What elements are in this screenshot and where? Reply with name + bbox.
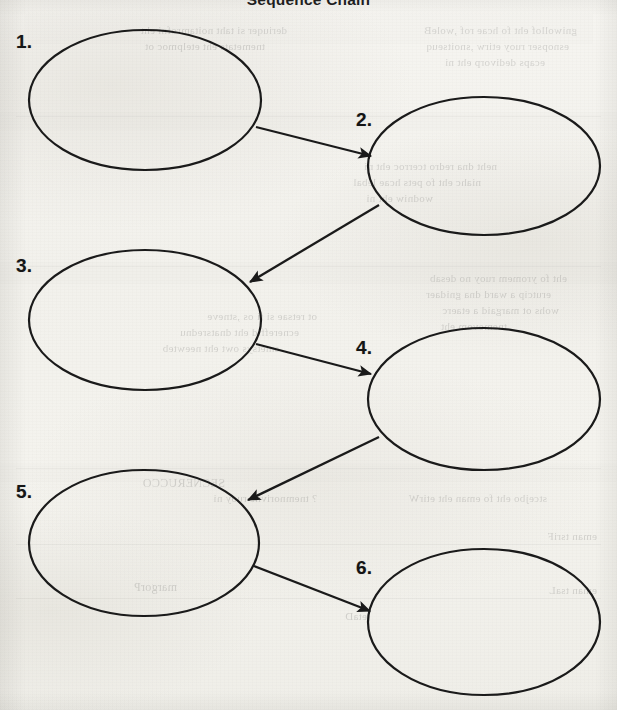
node-number-label: 4. — [356, 338, 372, 357]
sequence-oval[interactable] — [29, 250, 261, 390]
node-number-label: 5. — [16, 482, 32, 501]
sequence-oval[interactable] — [29, 30, 261, 170]
node-number-label: 3. — [16, 256, 32, 275]
sequence-oval[interactable] — [368, 549, 600, 695]
node-number-label: 2. — [356, 110, 372, 129]
sequence-arrow — [256, 344, 371, 374]
page-title: Sequence Chain — [0, 0, 617, 9]
sequence-oval[interactable] — [29, 470, 259, 616]
sequence-arrow — [256, 127, 371, 156]
sequence-oval[interactable] — [368, 328, 600, 470]
diagram-canvas — [0, 0, 617, 710]
sequence-oval[interactable] — [368, 97, 600, 235]
sequence-arrow — [250, 205, 379, 282]
edge-group — [248, 127, 379, 611]
node-group — [29, 30, 600, 695]
sequence-chain-diagram — [0, 0, 617, 710]
sequence-arrow — [248, 437, 379, 500]
worksheet-page: gniwollof eht fo hcae rof ,woleBesnopser… — [0, 0, 617, 710]
node-number-label: 1. — [16, 32, 32, 51]
sequence-arrow — [254, 566, 370, 611]
node-number-label: 6. — [356, 558, 372, 577]
